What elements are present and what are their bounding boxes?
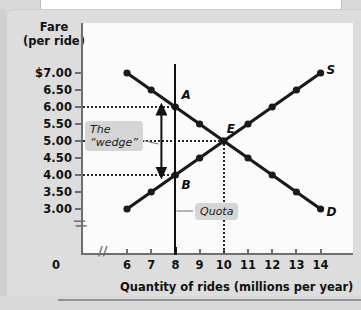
wedge-callout-line2: “wedge”	[90, 136, 138, 149]
wedge-callout: The “wedge”	[85, 121, 143, 151]
datapoint-D-7	[148, 86, 155, 93]
datapoint-D-12	[269, 171, 276, 178]
point-b-label: B	[181, 178, 190, 192]
datapoint-D-14	[317, 205, 324, 212]
quota-callout: Quota	[195, 203, 238, 220]
wedge-callout-line1: The	[90, 123, 138, 136]
point-e-label: E	[227, 122, 235, 136]
datapoint-S-11	[244, 120, 251, 127]
datapoint-D-6	[123, 69, 130, 76]
datapoint-S-13	[293, 86, 300, 93]
datapoint-D-11	[244, 154, 251, 161]
datapoint-S-14	[317, 69, 324, 76]
quota-vertical-line	[174, 64, 176, 253]
datapoint-S-10	[220, 137, 227, 144]
point-a-label: A	[181, 88, 190, 102]
datapoint-S-6	[123, 205, 130, 212]
supply-curve-label: S	[327, 63, 336, 77]
datapoint-D-9	[196, 120, 203, 127]
curves-layer	[0, 0, 361, 310]
datapoint-D-13	[293, 188, 300, 195]
figure-root: Fare (per ride) Quantity of rides (milli…	[0, 0, 361, 310]
datapoint-S-12	[269, 103, 276, 110]
demand-curve-label: D	[327, 205, 337, 219]
datapoint-S-7	[148, 188, 155, 195]
datapoint-S-9	[196, 154, 203, 161]
